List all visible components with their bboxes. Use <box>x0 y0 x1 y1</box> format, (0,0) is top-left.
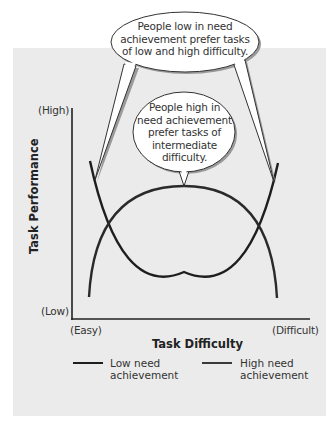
y-axis-title: Task Performance <box>27 142 41 254</box>
callout-top-text: People low in need achievement prefer ta… <box>111 20 259 58</box>
legend-item-high: High need achievement <box>240 357 308 381</box>
legend-swatch-low <box>73 362 103 364</box>
legend-item-low: Low need achievement <box>110 357 178 381</box>
callout-inner-line: difficulty. <box>134 151 235 164</box>
legend-label: achievement <box>110 369 178 381</box>
y-label-high: (High) <box>38 104 69 116</box>
x-label-easy: (Easy) <box>70 324 102 336</box>
legend-label: High need <box>240 357 308 369</box>
callout-inner-line: need achievement <box>134 114 235 127</box>
callout-inner-text: People high in need achievement prefer t… <box>134 101 235 164</box>
callout-top-line: achievement prefer tasks <box>111 33 259 46</box>
callout-inner-line: intermediate <box>134 139 235 152</box>
callout-top-line: of low and high difficulty. <box>111 45 259 58</box>
x-label-difficult: (Difficult) <box>272 324 319 336</box>
y-label-low: (Low) <box>41 305 69 317</box>
legend-label: Low need <box>110 357 178 369</box>
x-axis-title: Task Difficulty <box>152 337 243 351</box>
callout-top-line: People low in need <box>111 20 259 33</box>
callout-inner-line: prefer tasks of <box>134 126 235 139</box>
legend-label: achievement <box>240 369 308 381</box>
legend-swatch-high <box>202 362 232 364</box>
callout-inner-line: People high in <box>134 101 235 114</box>
figure: People low in need achievement prefer ta… <box>0 0 336 429</box>
